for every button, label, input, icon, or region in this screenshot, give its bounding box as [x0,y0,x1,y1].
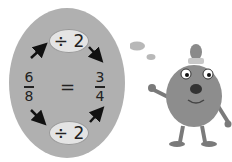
arrow-left-to-bottom [31,110,43,122]
right-numerator: 3 [96,70,105,85]
left-denominator: 8 [25,89,34,104]
fuzzy-body [166,65,222,127]
right-fraction: 3 4 [95,70,105,104]
left-fraction: 6 8 [24,70,34,104]
arrow-up-left-to-top [31,46,44,58]
left-numerator: 6 [25,70,34,85]
arrow-bottom-to-right [90,110,101,122]
right-denominator: 4 [96,89,105,104]
top-operation-pill: ÷ 2 [49,29,89,53]
equals-sign: = [60,76,75,97]
arrow-top-to-right [89,47,100,59]
top-operation-label: ÷ 2 [54,31,84,51]
nose [190,84,202,94]
thought-bubble-large [130,42,145,51]
bottom-operation-label: ÷ 2 [54,123,84,143]
monster-mascot-icon [130,38,232,150]
thought-bubble-small [147,54,156,60]
hat [190,44,202,60]
bottom-operation-pill: ÷ 2 [49,121,89,145]
